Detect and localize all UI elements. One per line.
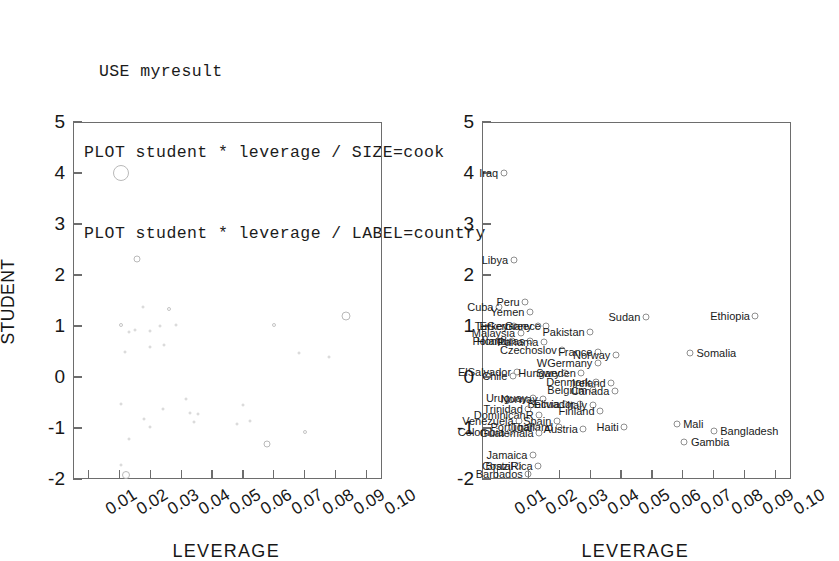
data-point bbox=[529, 451, 536, 458]
x-axis-tick bbox=[273, 470, 274, 479]
point-label: Bangladesh bbox=[719, 425, 779, 436]
scatter-panel-size-cook: 543210-1-20.010.020.030.040.050.060.070.… bbox=[0, 0, 420, 552]
y-axis-tick bbox=[482, 121, 491, 122]
data-bubble bbox=[174, 323, 177, 326]
data-bubble bbox=[272, 323, 276, 327]
point-label: Mali bbox=[682, 418, 704, 429]
point-label: Gambia bbox=[689, 437, 729, 448]
point-label: Barbados bbox=[476, 468, 525, 479]
data-bubble bbox=[122, 471, 130, 479]
point-label: Austria bbox=[544, 424, 580, 435]
x-axis-tick bbox=[559, 470, 560, 479]
y-axis-tick bbox=[73, 427, 82, 428]
point-label: Sudan bbox=[608, 311, 641, 322]
data-point bbox=[710, 427, 717, 434]
point-label: Iraq bbox=[479, 168, 499, 179]
data-point bbox=[510, 256, 517, 263]
x-axis-title: LEVERAGE bbox=[173, 541, 280, 561]
x-axis-tick bbox=[744, 470, 745, 479]
data-bubble bbox=[142, 305, 145, 308]
y-axis-tick bbox=[73, 325, 82, 326]
y-axis-tick bbox=[73, 478, 82, 479]
x-axis-label: 0.10 bbox=[790, 485, 829, 519]
data-bubble bbox=[197, 412, 200, 415]
data-bubble bbox=[158, 325, 161, 328]
data-bubble bbox=[148, 425, 151, 428]
data-bubble bbox=[149, 346, 152, 349]
data-bubble bbox=[193, 420, 196, 423]
scatter-panel-label-country: 543210-1-20.010.020.030.040.050.060.070.… bbox=[409, 0, 839, 552]
y-axis-label: 4 bbox=[434, 162, 474, 184]
data-point bbox=[597, 407, 604, 414]
y-axis-label: -1 bbox=[25, 417, 65, 439]
y-axis-label: 2 bbox=[25, 264, 65, 286]
y-axis-label: 5 bbox=[434, 111, 474, 133]
x-axis-tick bbox=[304, 470, 305, 479]
x-axis-tick bbox=[620, 470, 621, 479]
data-bubble bbox=[143, 417, 146, 420]
x-axis-tick bbox=[181, 470, 182, 479]
data-point bbox=[526, 308, 533, 315]
y-axis-tick bbox=[73, 172, 82, 173]
data-point bbox=[594, 359, 601, 366]
data-point bbox=[535, 463, 542, 470]
data-bubble bbox=[134, 255, 141, 262]
x-axis-tick bbox=[211, 470, 212, 479]
x-axis-tick bbox=[335, 470, 336, 479]
y-axis-label: 3 bbox=[25, 213, 65, 235]
data-point bbox=[673, 420, 680, 427]
data-bubble bbox=[167, 307, 171, 311]
y-axis-label: -2 bbox=[434, 468, 474, 490]
y-axis-tick bbox=[73, 121, 82, 122]
data-point bbox=[587, 329, 594, 336]
x-axis-tick bbox=[150, 470, 151, 479]
x-axis-tick bbox=[713, 470, 714, 479]
data-point bbox=[509, 372, 516, 379]
data-point bbox=[621, 423, 628, 430]
y-axis-label: 5 bbox=[25, 111, 65, 133]
y-axis-tick bbox=[482, 274, 491, 275]
point-label: Pakistan bbox=[542, 327, 586, 338]
y-axis-label: 1 bbox=[25, 315, 65, 337]
data-bubble bbox=[149, 330, 152, 333]
y-axis-tick bbox=[73, 223, 82, 224]
point-label: Ethiopia bbox=[710, 310, 751, 321]
data-point bbox=[580, 426, 587, 433]
data-point bbox=[686, 349, 693, 356]
y-axis-tick bbox=[482, 223, 491, 224]
data-point bbox=[611, 388, 618, 395]
data-bubble bbox=[241, 404, 244, 407]
point-label: Chile bbox=[482, 370, 509, 381]
data-point bbox=[612, 351, 619, 358]
x-axis-tick bbox=[590, 470, 591, 479]
data-point bbox=[536, 430, 543, 437]
y-axis-label: 1 bbox=[434, 315, 474, 337]
point-label: Haiti bbox=[597, 421, 621, 432]
data-bubble bbox=[342, 311, 351, 320]
data-point bbox=[525, 470, 532, 477]
data-bubble bbox=[119, 402, 122, 405]
x-axis-tick bbox=[775, 470, 776, 479]
x-axis-tick bbox=[366, 470, 367, 479]
data-point bbox=[642, 313, 649, 320]
data-bubble bbox=[189, 411, 192, 414]
y-axis-title: STUDENT bbox=[0, 221, 19, 381]
data-bubble bbox=[119, 463, 122, 466]
data-bubble bbox=[123, 350, 126, 353]
data-bubble bbox=[163, 344, 166, 347]
point-label: Somalia bbox=[695, 347, 736, 358]
y-axis-tick bbox=[73, 376, 82, 377]
data-bubble bbox=[328, 355, 331, 358]
y-axis-label: 0 bbox=[25, 366, 65, 388]
y-axis-label: -2 bbox=[25, 468, 65, 490]
y-axis-label: 2 bbox=[434, 264, 474, 286]
data-bubble bbox=[113, 165, 129, 181]
x-axis-tick bbox=[88, 470, 89, 479]
data-bubble bbox=[264, 440, 271, 447]
x-axis-tick bbox=[119, 470, 120, 479]
data-bubble bbox=[128, 438, 131, 441]
data-bubble bbox=[133, 328, 136, 331]
data-bubble bbox=[297, 351, 300, 354]
point-label: Libya bbox=[482, 254, 510, 265]
